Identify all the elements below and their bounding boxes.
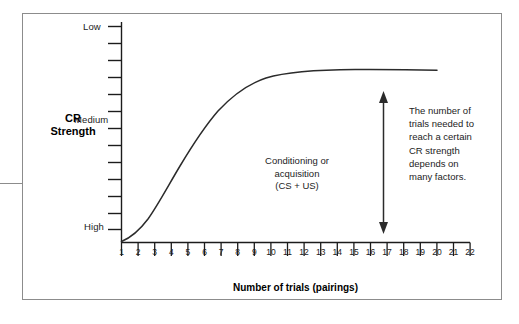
y-axis-title-line-1: CR [36, 112, 110, 125]
conditioning-label-line-2: acquisition [226, 168, 368, 181]
trials-needed-note-line-1: The number of [409, 104, 501, 117]
x-tick-label-19: 19 [413, 247, 427, 257]
x-tick-label-13: 13 [314, 247, 328, 257]
x-tick-label-17: 17 [380, 247, 394, 257]
x-tick-label-15: 15 [347, 247, 361, 257]
x-axis-title: Number of trials (pairings) [121, 282, 470, 293]
trials-needed-note-line-4: CR strength [409, 144, 501, 157]
x-tick-label-5: 5 [181, 247, 195, 257]
trials-needed-note: The number of trials needed to reach a c… [409, 104, 501, 183]
y-tick-label-low: High [84, 221, 104, 232]
x-tick-label-3: 3 [148, 247, 162, 257]
x-axis-tick-labels: 12345678910111213141516171819202122 [0, 247, 519, 261]
x-tick-label-14: 14 [330, 247, 344, 257]
y-axis-title-line-2: Strength [36, 125, 110, 138]
trials-needed-note-line-5: depends on [409, 157, 501, 170]
x-tick-label-22: 22 [463, 247, 477, 257]
x-tick-label-11: 11 [281, 247, 295, 257]
x-tick-label-6: 6 [198, 247, 212, 257]
trials-needed-note-line-2: trials needed to [409, 117, 501, 130]
x-tick-label-1: 1 [115, 247, 129, 257]
x-tick-label-9: 9 [247, 247, 261, 257]
trials-needed-note-line-3: reach a certain [409, 130, 501, 143]
figure-canvas: Low Medium High CR Strength 123456789101… [0, 0, 519, 324]
x-tick-label-10: 10 [264, 247, 278, 257]
y-tick-label-high: Low [83, 21, 101, 32]
x-tick-label-12: 12 [297, 247, 311, 257]
conditioning-label-line-3: (CS + US) [226, 180, 368, 193]
cr-strength-range-arrow [379, 91, 388, 234]
x-tick-label-4: 4 [164, 247, 178, 257]
x-tick-label-21: 21 [447, 247, 461, 257]
x-tick-label-8: 8 [231, 247, 245, 257]
x-tick-label-20: 20 [430, 247, 444, 257]
x-tick-label-2: 2 [131, 247, 145, 257]
x-tick-label-16: 16 [364, 247, 378, 257]
y-axis-title: CR Strength [36, 112, 110, 138]
x-tick-label-18: 18 [397, 247, 411, 257]
conditioning-label: Conditioning or acquisition (CS + US) [226, 155, 368, 193]
x-tick-label-7: 7 [214, 247, 228, 257]
conditioning-label-line-1: Conditioning or [226, 155, 368, 168]
y-axis-ticks [108, 27, 122, 230]
trials-needed-note-line-6: many factors. [409, 170, 501, 183]
